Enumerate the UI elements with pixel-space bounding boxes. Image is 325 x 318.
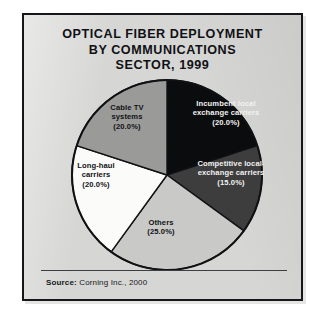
figure-canvas: OPTICAL FIBER DEPLOYMENT BY COMMUNICATIO… [0,0,325,318]
source-text: Corning Inc., 2000 [79,278,147,287]
chart-title: OPTICAL FIBER DEPLOYMENT BY COMMUNICATIO… [24,27,301,74]
source-divider [41,270,287,271]
chart-title-line-2: BY COMMUNICATIONS [24,43,301,59]
pie-label-cable-tv-systems: Cable TV systems (20.0%) [84,103,170,131]
chart-title-line-1: OPTICAL FIBER DEPLOYMENT [24,27,301,43]
pie-label-others: Others (25.0%) [120,218,202,237]
pie-label-long-haul-carriers: Long-haul carriers (20.0%) [53,161,139,189]
chart-panel: OPTICAL FIBER DEPLOYMENT BY COMMUNICATIO… [22,13,303,301]
pie-label-incumbent-local-exchange-carriers: Incumbent local exchange carriers (20.0%… [164,99,288,127]
source-label: Source: [46,278,77,287]
source-note: Source: Corning Inc., 2000 [46,278,147,287]
pie-label-competitive-local-exchange-carriers: Competitive local- exchange carriers (15… [168,159,294,187]
chart-title-line-3: SECTOR, 1999 [24,58,301,74]
